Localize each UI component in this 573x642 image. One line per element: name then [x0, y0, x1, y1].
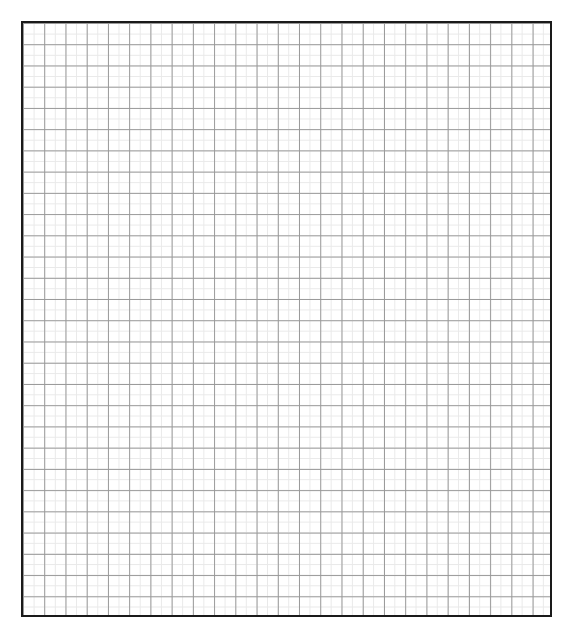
- grid-paper-canvas: [0, 0, 573, 642]
- grid-rulings-major: [23, 23, 550, 615]
- graph-paper-frame: [21, 21, 552, 617]
